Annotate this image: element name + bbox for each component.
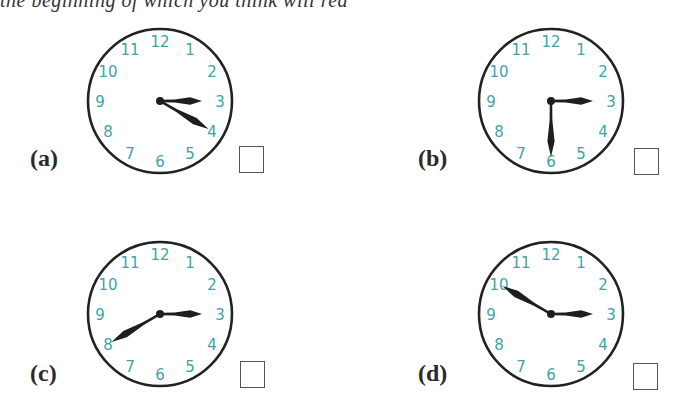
clock-numeral: 9 (95, 93, 105, 111)
clock-numeral: 11 (511, 254, 530, 272)
clock-center-pin (547, 310, 555, 318)
clock-numeral: 3 (606, 306, 616, 324)
clock-numeral: 1 (185, 254, 195, 272)
clock-face-a: 121234567891011 (85, 25, 235, 177)
clock-numeral: 4 (207, 123, 217, 141)
clock-numeral: 4 (598, 336, 608, 354)
clock-numeral: 6 (546, 366, 556, 384)
clock-numeral: 3 (606, 93, 616, 111)
answer-checkbox-c[interactable] (240, 361, 265, 388)
clock-numeral: 2 (598, 276, 608, 294)
clock-face-b: 121234567891011 (476, 25, 626, 177)
answer-checkbox-a[interactable] (239, 146, 264, 173)
answer-checkbox-d[interactable] (633, 363, 658, 390)
clock-numeral: 10 (98, 63, 117, 81)
clock-numeral: 9 (486, 306, 496, 324)
clock-numeral: 11 (511, 41, 530, 59)
clock-numeral: 7 (516, 145, 526, 163)
clock-numeral: 6 (155, 153, 165, 171)
clock-numeral: 11 (120, 41, 139, 59)
clock-numeral: 5 (185, 358, 195, 376)
clock-numeral: 8 (494, 123, 504, 141)
clock-numeral: 10 (489, 276, 508, 294)
clock-numeral: 12 (150, 33, 169, 51)
clock-numeral: 5 (576, 358, 586, 376)
question-label-b: (b) (418, 145, 447, 172)
clock-numeral: 10 (489, 63, 508, 81)
clock-face-c: 121234567891011 (85, 238, 235, 390)
clock-numeral: 6 (155, 366, 165, 384)
clock-numeral: 9 (95, 306, 105, 324)
clock-numeral: 12 (150, 246, 169, 264)
clock-numeral: 7 (125, 358, 135, 376)
clock-numeral: 1 (185, 41, 195, 59)
clock-numeral: 8 (494, 336, 504, 354)
clipped-instruction-text: the beginning of which you think will re… (0, 0, 682, 12)
clock-numeral: 11 (120, 254, 139, 272)
question-label-d: (d) (418, 360, 447, 387)
clock-numeral: 4 (598, 123, 608, 141)
clock-numeral: 10 (98, 276, 117, 294)
clock-numeral: 5 (576, 145, 586, 163)
clock-numeral: 2 (207, 63, 217, 81)
clock-numeral: 12 (541, 246, 560, 264)
clock-numeral: 12 (541, 33, 560, 51)
clock-numeral: 7 (516, 358, 526, 376)
clock-numeral: 3 (215, 306, 225, 324)
clock-numeral: 2 (598, 63, 608, 81)
clock-numeral: 8 (103, 123, 113, 141)
clock-numeral: 1 (576, 41, 586, 59)
clock-numeral: 2 (207, 276, 217, 294)
clock-numeral: 7 (125, 145, 135, 163)
clock-center-pin (547, 97, 555, 105)
question-label-a: (a) (30, 145, 58, 172)
clock-center-pin (156, 97, 164, 105)
clock-numeral: 4 (207, 336, 217, 354)
clock-numeral: 3 (215, 93, 225, 111)
clock-numeral: 9 (486, 93, 496, 111)
question-label-c: (c) (30, 360, 57, 387)
clock-numeral: 8 (103, 336, 113, 354)
answer-checkbox-b[interactable] (634, 148, 659, 175)
clock-center-pin (156, 310, 164, 318)
clock-face-d: 121234567891011 (476, 238, 626, 390)
clock-numeral: 1 (576, 254, 586, 272)
clock-numeral: 5 (185, 145, 195, 163)
